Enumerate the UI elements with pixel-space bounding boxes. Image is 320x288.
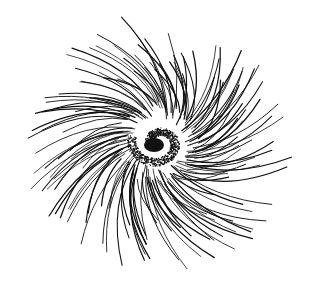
stipple-dot xyxy=(150,165,151,166)
stipple-dot xyxy=(157,128,158,129)
stipple-dot xyxy=(168,161,170,163)
stipple-dot xyxy=(152,166,153,167)
stipple-dot xyxy=(166,130,167,131)
stipple-dot xyxy=(175,146,176,147)
stipple-dot xyxy=(136,154,137,155)
stipple-dot xyxy=(135,145,136,146)
stipple-dot xyxy=(177,152,178,153)
stipple-dot xyxy=(170,136,171,137)
stipple-dot xyxy=(129,141,131,143)
stipple-dot xyxy=(172,157,174,159)
stipple-dot xyxy=(173,132,174,133)
stipple-dot xyxy=(150,131,151,132)
stipple-dot xyxy=(174,139,175,140)
stipple-dot xyxy=(174,144,175,145)
stipple-dot xyxy=(172,147,173,148)
stipple-dot xyxy=(128,146,129,147)
stipple-dot xyxy=(134,148,135,149)
stipple-dot xyxy=(135,141,136,142)
stipple-dot xyxy=(172,133,174,135)
stipple-dot xyxy=(138,156,139,157)
stipple-dot xyxy=(169,140,170,141)
stipple-dot xyxy=(168,134,169,135)
stipple-dot xyxy=(168,159,169,160)
stipple-dot xyxy=(142,162,144,164)
stipple-dot xyxy=(154,162,156,164)
stipple-dot xyxy=(154,133,155,134)
stipple-dot xyxy=(133,154,134,155)
stipple-dot xyxy=(140,157,141,158)
stipple-dot xyxy=(173,155,175,157)
stipple-dot xyxy=(154,137,155,138)
stipple-dot xyxy=(169,150,170,151)
stipple-dot xyxy=(132,152,133,153)
stipple-dot xyxy=(176,139,177,140)
stipple-dot xyxy=(156,134,157,135)
stipple-dot xyxy=(160,132,162,134)
stipple-dot xyxy=(129,137,130,138)
stipple-dot xyxy=(140,153,141,154)
stipple-dot xyxy=(171,155,172,156)
stipple-dot xyxy=(172,132,173,133)
stipple-dot xyxy=(155,165,157,167)
stipple-dot xyxy=(172,137,173,138)
stipple-dot xyxy=(155,164,157,166)
stipple-dot xyxy=(145,138,147,140)
stipple-dot xyxy=(151,136,152,137)
stipple-dot xyxy=(157,135,159,137)
stipple-dot xyxy=(156,132,157,133)
stipple-dot xyxy=(150,137,151,138)
stipple-dot xyxy=(167,134,168,135)
stipple-dot xyxy=(143,158,144,159)
stipple-dot xyxy=(129,146,130,147)
stipple-dot xyxy=(132,141,134,143)
stipple-dot xyxy=(159,164,160,165)
stipple-dot xyxy=(146,162,147,163)
stipple-dot xyxy=(162,135,164,137)
stipple-dot xyxy=(135,152,137,154)
stipple-dot xyxy=(142,155,143,156)
stipple-dot xyxy=(178,145,179,146)
stipple-dot xyxy=(135,147,136,148)
stipple-dot xyxy=(158,158,160,160)
stipple-dot xyxy=(139,160,140,161)
stipple-dot xyxy=(149,134,151,136)
stipple-dot xyxy=(171,139,172,140)
stipple-dot xyxy=(176,150,177,151)
stipple-dot xyxy=(161,162,162,163)
stipple-dot xyxy=(171,150,172,151)
stipple-dot xyxy=(171,152,172,153)
stipple-dot xyxy=(160,127,161,128)
stipple-dot xyxy=(151,157,153,159)
stipple-dot xyxy=(134,153,135,154)
stipple-dot xyxy=(174,145,175,146)
stipple-dot xyxy=(159,130,160,131)
stipple-dot xyxy=(137,146,138,147)
stipple-dot xyxy=(155,163,156,164)
stipple-dot xyxy=(134,150,135,151)
stipple-dot xyxy=(149,132,150,133)
stipple-dot xyxy=(148,159,149,160)
stipple-dot xyxy=(128,141,129,142)
stipple-dot xyxy=(178,148,180,150)
stipple-dot xyxy=(135,143,136,144)
core-dark-center xyxy=(144,138,164,152)
stipple-dot xyxy=(160,164,161,165)
stipple-dot xyxy=(153,160,155,162)
stipple-dot xyxy=(130,135,131,136)
stipple-dot xyxy=(170,157,172,159)
stipple-dot xyxy=(132,146,133,147)
stipple-dot xyxy=(137,151,139,153)
stipple-dot xyxy=(137,150,138,151)
stipple-dot xyxy=(135,148,137,150)
stipple-dot xyxy=(133,139,135,141)
stipple-dot xyxy=(163,157,165,159)
stipple-dot xyxy=(175,153,176,154)
stipple-dot xyxy=(168,152,169,153)
stipple-dot xyxy=(132,141,133,142)
stipple-dot xyxy=(130,145,132,147)
stipple-dot xyxy=(142,154,143,155)
stipple-dot xyxy=(141,157,142,158)
stipple-dot xyxy=(170,146,171,147)
stipple-dot xyxy=(151,134,152,135)
